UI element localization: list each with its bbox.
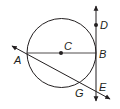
point-d: [94, 23, 98, 27]
label-a: A: [13, 54, 21, 66]
geometry-diagram: D C B A G E: [0, 0, 120, 109]
label-b: B: [99, 48, 106, 60]
label-g: G: [75, 87, 84, 99]
label-d: D: [100, 19, 108, 31]
label-e: E: [99, 81, 107, 93]
label-c: C: [64, 40, 72, 52]
point-c: [59, 51, 63, 55]
